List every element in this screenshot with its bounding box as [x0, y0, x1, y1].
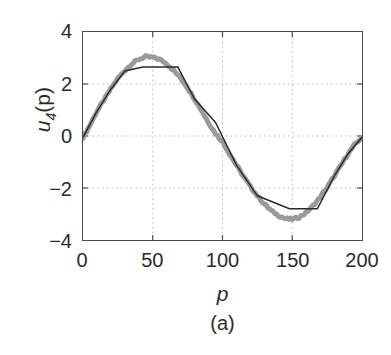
x-tick-label-0: 0	[76, 250, 87, 270]
x-axis-title: p	[82, 283, 363, 304]
figure-panel-a: 4 2 0 −2 −4 u4(p)	[0, 0, 391, 355]
x-tick-label-100: 100	[206, 250, 239, 270]
x-tick-label-50: 50	[141, 250, 163, 270]
figure-caption: (a)	[82, 313, 363, 333]
y-axis-title-subscript: 4	[43, 113, 59, 121]
y-tick-label-minus-2: −2	[36, 179, 72, 199]
x-tick-label-150: 150	[276, 250, 309, 270]
y-tick-label-minus-4: −4	[36, 231, 72, 251]
y-tick-label-4: 4	[40, 21, 72, 41]
y-axis-title-base: u	[31, 120, 54, 132]
y-axis-title: u4(p)	[32, 55, 57, 165]
y-axis-title-arg: (p)	[31, 87, 54, 113]
plot-area	[82, 31, 363, 241]
x-tick-label-200: 200	[345, 250, 378, 270]
plot-canvas	[83, 32, 362, 240]
